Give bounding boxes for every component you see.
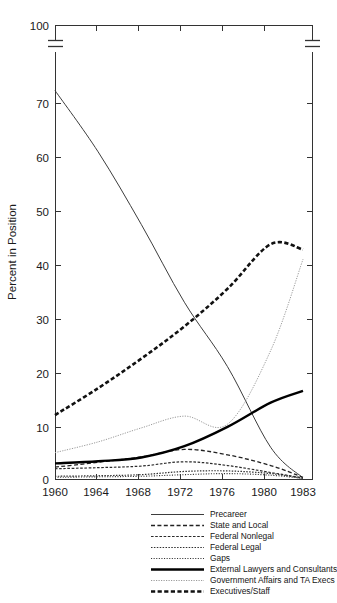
legend-item[interactable]: Federal Nonlegal	[150, 531, 337, 542]
x-tick-label-1983: 1983	[290, 486, 316, 498]
thick-solid-line-icon	[150, 564, 205, 575]
y-axis-title: Percent in Position	[6, 204, 18, 300]
y-tick-label-20: 20	[36, 368, 49, 380]
legend-item[interactable]: State and Local	[150, 520, 337, 531]
dotted-fine-line-icon	[150, 553, 205, 564]
dashed-line-icon	[150, 520, 205, 531]
chart-svg: Percent in Position	[0, 0, 335, 505]
chart-legend: PrecareerState and LocalFederal Nonlegal…	[0, 505, 335, 603]
legend-label: Federal Legal	[210, 542, 261, 553]
series-line-gaps	[55, 474, 303, 479]
x-tick-label-1972: 1972	[167, 486, 193, 498]
y-tick-label-100: 100	[30, 20, 49, 32]
x-tick-label-1980: 1980	[251, 486, 277, 498]
x-tick-label-1976: 1976	[209, 486, 235, 498]
series-line-precareer	[55, 91, 303, 478]
legend-list: PrecareerState and LocalFederal Nonlegal…	[150, 509, 337, 597]
legend-label: Gaps	[210, 553, 230, 564]
y-tick-label-50: 50	[36, 206, 49, 218]
thin-solid-line-icon	[150, 509, 205, 520]
series-line-state-and-local	[55, 449, 303, 477]
legend-label: Precareer	[210, 509, 247, 520]
line-chart-figure: Percent in Position	[0, 0, 335, 505]
y-tick-label-30: 30	[36, 314, 49, 326]
legend-item[interactable]: Executives/Staff	[150, 586, 337, 597]
legend-label: Federal Nonlegal	[210, 531, 274, 542]
legend-label: Executives/Staff	[210, 586, 270, 597]
thick-dashed-line-icon	[150, 586, 205, 597]
y-tick-label-70: 70	[36, 98, 49, 110]
x-tick-label-1968: 1968	[125, 486, 151, 498]
fine-dashed-line-icon	[150, 531, 205, 542]
axis-break-right	[305, 41, 320, 47]
legend-label: Government Affairs and TA Execs	[210, 575, 335, 586]
legend-item[interactable]: Government Affairs and TA Execs	[150, 575, 337, 586]
y-tick-label-10: 10	[36, 422, 49, 434]
legend-item[interactable]: Gaps	[150, 553, 337, 564]
y-tick-label-0: 0	[43, 474, 49, 486]
light-dotted-line-icon	[150, 575, 205, 586]
x-tick-label-1964: 1964	[83, 486, 109, 498]
series-line-government-affairs-and-ta-execs	[55, 259, 303, 452]
legend-item[interactable]: External Lawyers and Consultants	[150, 564, 337, 575]
series-layer	[55, 91, 303, 479]
legend-item[interactable]: Precareer	[150, 509, 337, 520]
y-tick-label-40: 40	[36, 260, 49, 272]
legend-label: External Lawyers and Consultants	[210, 564, 337, 575]
axis-break-left	[48, 41, 63, 47]
y-tick-label-60: 60	[36, 152, 49, 164]
legend-item[interactable]: Federal Legal	[150, 542, 337, 553]
dotted-line-icon	[150, 542, 205, 553]
series-line-executives-staff	[55, 242, 303, 415]
x-tick-label-1960: 1960	[42, 486, 68, 498]
series-line-external-lawyers-and-consultants	[55, 391, 303, 464]
legend-label: State and Local	[210, 520, 268, 531]
